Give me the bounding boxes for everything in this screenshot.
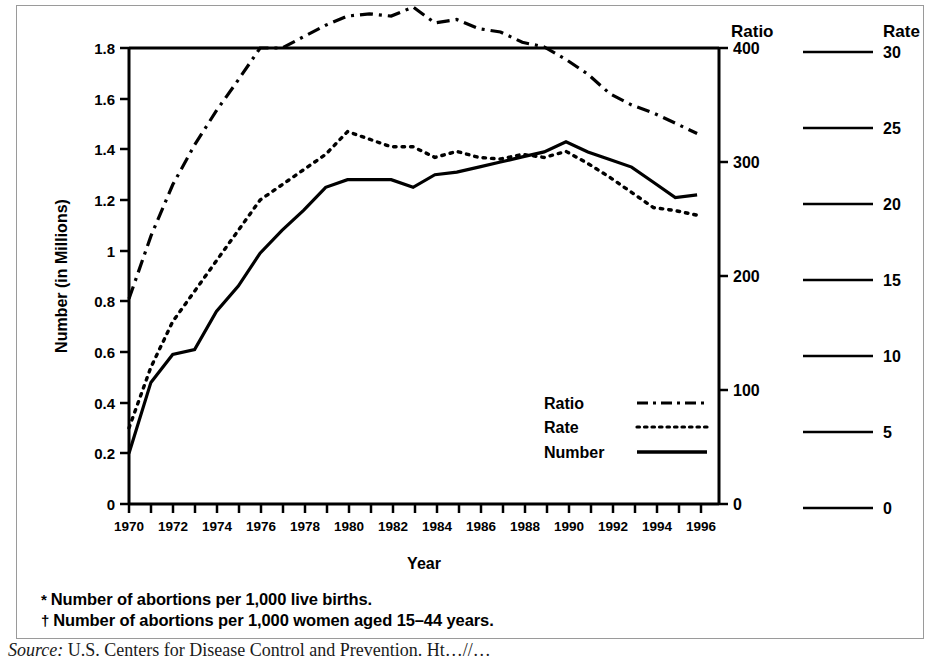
- rate-tick-label: 30: [883, 44, 901, 61]
- rate-tick-label: 15: [883, 272, 901, 289]
- x-tick-label: 1982: [378, 519, 408, 534]
- y-tick-label: 1.6: [94, 91, 115, 108]
- rate-scale-tick-labels: 30 25 20 15 10 5 0: [883, 44, 901, 517]
- rate-tick-label: 25: [883, 120, 901, 137]
- rate-scale-header: Rate: [883, 22, 920, 41]
- legend-label-ratio: Ratio: [544, 395, 584, 412]
- x-tick-label: 1974: [202, 519, 233, 534]
- ratio-tick-label: 0: [733, 496, 742, 513]
- y-axis-title: Number (in Millions): [53, 199, 70, 353]
- footnote-marker-asterisk: *: [41, 591, 51, 608]
- ratio-tick-label: 100: [733, 382, 760, 399]
- y-tick-label: 1: [107, 243, 115, 260]
- ratio-scale-tick-labels: 0 100 200 300 400: [733, 40, 760, 513]
- y-tick-label: 1.8: [94, 40, 115, 57]
- x-tick-label: 1970: [114, 519, 144, 534]
- x-axis-tick-labels: 1970 1972 1974 1976 1978 1980 1982 1984 …: [114, 519, 717, 534]
- y-tick-label: 1.2: [94, 192, 115, 209]
- x-tick-label: 1984: [422, 519, 453, 534]
- abortion-trends-chart: 0 0.2 0.4 0.6 0.8 1 1.2 1.4 1.6 1.8 Numb…: [17, 6, 924, 639]
- y-tick-label: 0.6: [94, 344, 115, 361]
- source-text: U.S. Centers for Disease Control and Pre…: [63, 640, 490, 658]
- rate-tick-label: 0: [883, 500, 892, 517]
- source-line: Source: U.S. Centers for Disease Control…: [8, 640, 491, 658]
- ratio-scale-header: Ratio: [731, 22, 774, 41]
- y-tick-label: 0.8: [94, 293, 115, 310]
- x-tick-label: 1986: [466, 519, 497, 534]
- footnote-text-1: Number of abortions per 1,000 live birth…: [51, 590, 372, 608]
- x-tick-label: 1994: [642, 519, 673, 534]
- y-tick-label: 0.2: [94, 445, 115, 462]
- footnote-text-2: Number of abortions per 1,000 women aged…: [53, 611, 493, 629]
- chart-legend: Ratio Rate Number: [544, 395, 707, 461]
- series-line-ratio: [129, 7, 697, 299]
- y-tick-label: 1.4: [94, 141, 116, 158]
- x-tick-label: 1996: [686, 519, 717, 534]
- y-axis-left-tick-labels: 0 0.2 0.4 0.6 0.8 1 1.2 1.4 1.6 1.8: [94, 40, 116, 513]
- x-tick-label: 1976: [246, 519, 277, 534]
- footnote-dagger: †Number of abortions per 1,000 women age…: [41, 611, 494, 630]
- series-group: [129, 7, 697, 453]
- footnote-marker-dagger: †: [41, 612, 53, 629]
- legend-label-rate: Rate: [544, 419, 579, 436]
- rate-scale-rules: [803, 52, 873, 508]
- x-tick-label: 1980: [334, 519, 364, 534]
- source-label: Source:: [8, 640, 63, 658]
- x-tick-label: 1992: [598, 519, 628, 534]
- y-tick-label: 0: [107, 496, 115, 513]
- x-tick-label: 1988: [510, 519, 541, 534]
- legend-label-number: Number: [544, 444, 604, 461]
- rate-tick-label: 10: [883, 348, 901, 365]
- x-tick-label: 1990: [554, 519, 584, 534]
- footnote-asterisk: *Number of abortions per 1,000 live birt…: [41, 590, 372, 609]
- rate-tick-label: 20: [883, 196, 901, 213]
- x-tick-label: 1972: [158, 519, 188, 534]
- series-line-number: [129, 142, 697, 454]
- figure-frame: 0 0.2 0.4 0.6 0.8 1 1.2 1.4 1.6 1.8 Numb…: [16, 5, 924, 639]
- x-axis-title: Year: [407, 555, 441, 572]
- ratio-tick-label: 400: [733, 40, 760, 57]
- ratio-tick-label: 300: [733, 154, 760, 171]
- y-tick-label: 0.4: [94, 395, 116, 412]
- rate-tick-label: 5: [883, 424, 892, 441]
- series-line-rate: [129, 132, 697, 428]
- x-tick-label: 1978: [290, 519, 321, 534]
- ratio-tick-label: 200: [733, 268, 760, 285]
